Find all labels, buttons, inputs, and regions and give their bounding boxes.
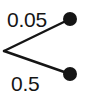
branch-diagram: 0.05 0.5 [0,0,88,98]
node-upper-dot [63,12,77,26]
edge-label-lower: 0.5 [11,73,40,94]
edge-lower [4,51,70,74]
edge-label-upper: 0.05 [7,9,47,30]
node-lower-dot [63,67,77,81]
